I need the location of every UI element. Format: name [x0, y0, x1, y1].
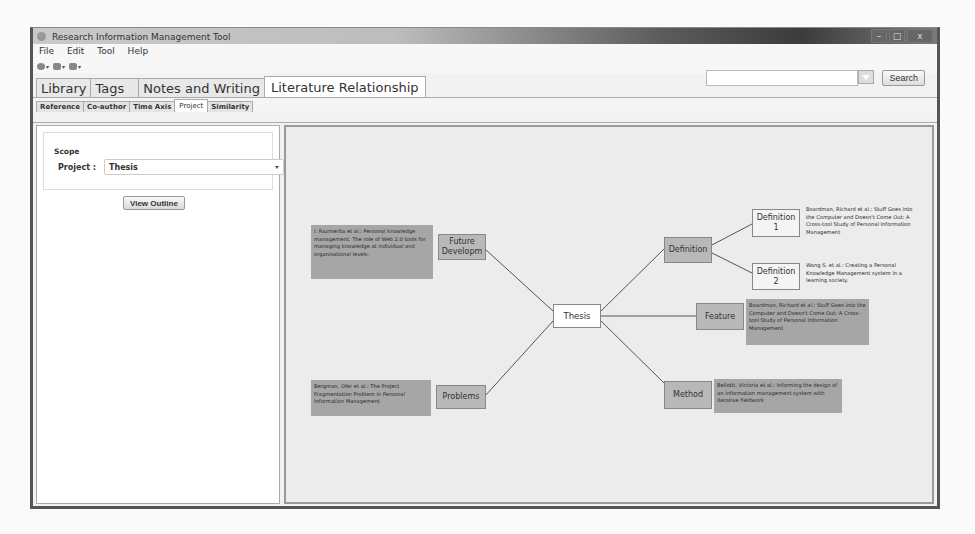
subtab-project[interactable]: Project	[174, 99, 208, 112]
search-area: Search	[706, 70, 925, 86]
chevron-down-icon	[275, 166, 279, 169]
mindmap-panel: I. Razmerita et al.: Personal knowledge …	[284, 125, 934, 504]
title-bar[interactable]: Research Information Management Tool – □…	[33, 28, 937, 44]
project-select-value: Thesis	[109, 163, 138, 172]
subtab-time-axis[interactable]: Time Axis	[129, 101, 175, 112]
window-title: Research Information Management Tool	[52, 32, 231, 42]
tab-literature-relationship[interactable]: Literature Relationship	[264, 76, 426, 97]
menu-tool[interactable]: Tool	[97, 46, 114, 56]
app-icon	[37, 32, 46, 41]
chevron-down-icon: ▾	[78, 63, 81, 70]
menu-file[interactable]: File	[39, 46, 54, 56]
note-definition-2: Wang S. et al.: Creating a Personal Know…	[803, 259, 923, 295]
forward-icon	[53, 63, 61, 70]
search-input[interactable]	[706, 70, 858, 86]
node-definition-2[interactable]: Definition 2	[752, 263, 800, 290]
menu-edit[interactable]: Edit	[67, 46, 84, 56]
node-thesis[interactable]: Thesis	[553, 304, 601, 328]
node-method[interactable]: Method	[664, 381, 712, 409]
close-button[interactable]: x	[907, 29, 933, 43]
menu-bar: File Edit Tool Help	[33, 44, 937, 59]
node-definition[interactable]: Definition	[664, 237, 712, 263]
window-controls: – □ x	[871, 29, 933, 43]
chevron-down-icon: ▾	[46, 63, 49, 70]
minimize-button[interactable]: –	[871, 29, 887, 43]
project-label: Project :	[58, 163, 96, 172]
note-problems: Bergman, Ofer et al.: The Project Fragme…	[311, 380, 431, 416]
note-future: I. Razmerita et al.: Personal knowledge …	[311, 225, 433, 279]
subtab-co-author[interactable]: Co-author	[83, 101, 130, 112]
chevron-down-icon: ▾	[62, 63, 65, 70]
node-future-development[interactable]: Future Developm	[438, 234, 486, 260]
project-select[interactable]: Thesis	[104, 159, 284, 175]
note-definition-1: Boardman, Richard et al.: Stuff Goes int…	[803, 203, 921, 251]
app-window: Research Information Management Tool – □…	[30, 27, 940, 509]
scope-group: Scope Project : Thesis	[43, 132, 273, 190]
scope-title: Scope	[54, 147, 79, 156]
toolbar-forward-button[interactable]: ▾	[53, 63, 65, 70]
sub-tabs: Reference Co-author Time Axis Project Si…	[33, 97, 937, 112]
node-problems[interactable]: Problems	[436, 385, 486, 409]
content-area: Scope Project : Thesis View Outline	[33, 122, 937, 506]
folder-icon	[69, 63, 77, 70]
maximize-button[interactable]: □	[889, 29, 905, 43]
node-feature[interactable]: Feature	[696, 303, 744, 330]
tab-tags[interactable]: Tags	[90, 78, 139, 97]
subtab-reference[interactable]: Reference	[36, 101, 84, 112]
tab-notes-and-writing[interactable]: Notes and Writing	[138, 78, 265, 97]
project-panel: Scope Project : Thesis View Outline	[36, 125, 280, 504]
subtab-similarity[interactable]: Similarity	[207, 101, 253, 112]
menu-help[interactable]: Help	[128, 46, 149, 56]
search-dropdown-button[interactable]	[858, 70, 874, 84]
view-outline-button[interactable]: View Outline	[123, 196, 185, 210]
back-icon	[37, 63, 45, 70]
tab-library[interactable]: Library	[36, 78, 91, 97]
toolbar-back-button[interactable]: ▾	[37, 63, 49, 70]
note-feature: Boardman, Richard et al.: Stuff Goes int…	[746, 299, 869, 345]
node-definition-1[interactable]: Definition 1	[752, 209, 800, 237]
note-method: Bellotti, Victoria et al.: Informing the…	[714, 379, 842, 413]
toolbar-folder-button[interactable]: ▾	[69, 63, 81, 70]
search-button[interactable]: Search	[882, 70, 925, 86]
